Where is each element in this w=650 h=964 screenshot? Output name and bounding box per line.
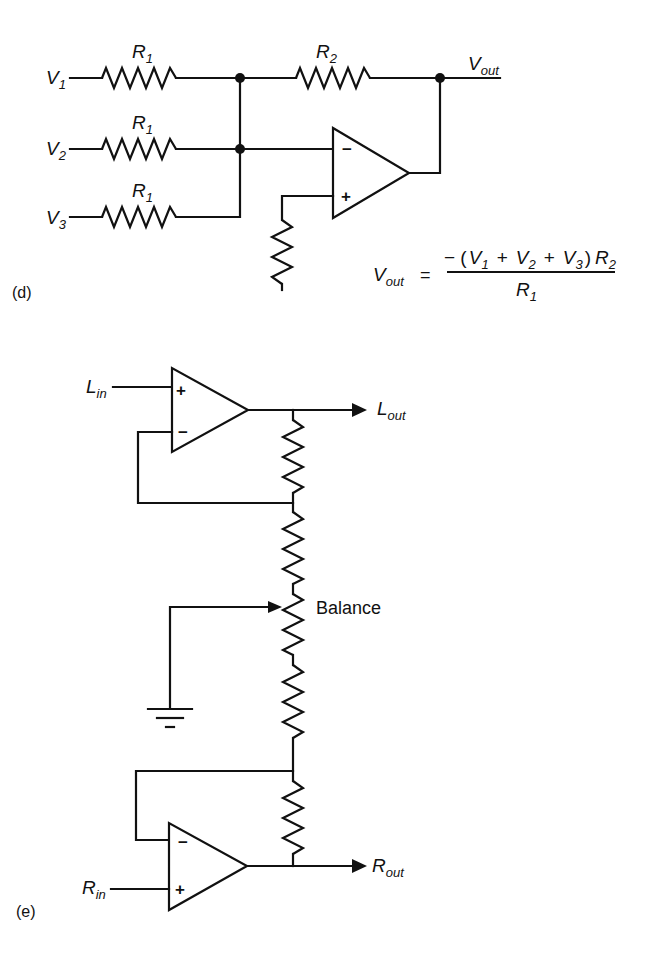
junction-top	[235, 73, 245, 83]
gain-formula: Vout = − (V1+V2+V3)R2 R1	[373, 247, 617, 304]
formula-equals: =	[420, 265, 431, 285]
lin-label: Lin	[86, 376, 107, 401]
r1-middle-label: R1	[132, 112, 153, 137]
circuit-figure: V1 R1 R2 Vout V2 R1 V3 R	[0, 0, 650, 964]
summing-amplifier-circuit: V1 R1 R2 Vout V2 R1 V3 R	[12, 41, 617, 304]
formula-denominator: R1	[516, 279, 537, 304]
resistor-chain	[283, 410, 303, 866]
resistor-r1-top	[102, 68, 176, 88]
balance-control-circuit: Lin + − Lout Balance	[16, 368, 407, 920]
formula-lhs: Vout	[373, 264, 405, 289]
caption-e: (e)	[16, 903, 36, 920]
rin-label: Rin	[82, 877, 106, 902]
rout-arrow-icon	[352, 859, 367, 873]
balance-potentiometer	[283, 594, 303, 655]
vout-label: Vout	[468, 53, 500, 78]
resistor-r1-middle	[102, 139, 176, 159]
rout-label: Rout	[372, 855, 405, 880]
bottom-noninverting-sign: +	[175, 880, 185, 899]
ground-icon	[148, 709, 192, 727]
resistor-r1-bottom	[102, 207, 176, 227]
input-v3: V3 R1	[46, 78, 240, 232]
r1-bottom-label: R1	[132, 180, 153, 205]
wiper-arrow-icon	[268, 601, 282, 613]
v2-label: V2	[46, 138, 67, 163]
input-v2: V2 R1	[46, 112, 333, 163]
v3-label: V3	[46, 207, 67, 232]
opamp-left-channel: + −	[172, 368, 248, 452]
lout-arrow-icon	[352, 403, 367, 417]
top-noninverting-sign: +	[176, 381, 186, 400]
input-v1: V1 R1	[46, 41, 296, 92]
r2-label: R2	[316, 41, 338, 66]
bias-resistor	[272, 220, 292, 284]
junction-middle	[235, 144, 245, 154]
top-inverting-sign: −	[178, 423, 188, 442]
noninverting-input-sign: +	[341, 187, 351, 206]
formula-numerator: − (V1+V2+V3)R2	[444, 247, 617, 272]
opamp-summing: − +	[333, 128, 409, 218]
bottom-inverting-sign: −	[178, 833, 188, 852]
balance-label: Balance	[316, 598, 381, 618]
inverting-input-sign: −	[342, 140, 352, 159]
lout-label: Lout	[377, 398, 407, 423]
caption-d: (d)	[12, 284, 32, 301]
opamp-right-channel: − +	[169, 823, 247, 910]
v1-label: V1	[46, 67, 66, 92]
r1-top-label: R1	[132, 41, 153, 66]
